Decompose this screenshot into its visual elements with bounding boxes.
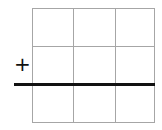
grid-horizontal-line-1 <box>32 46 155 47</box>
thick-baseline <box>14 83 155 86</box>
plus-icon: + <box>14 52 30 76</box>
grid-vertical-line-2 <box>115 8 116 123</box>
grid-3x3 <box>32 8 155 123</box>
grid-vertical-line-1 <box>73 8 74 123</box>
